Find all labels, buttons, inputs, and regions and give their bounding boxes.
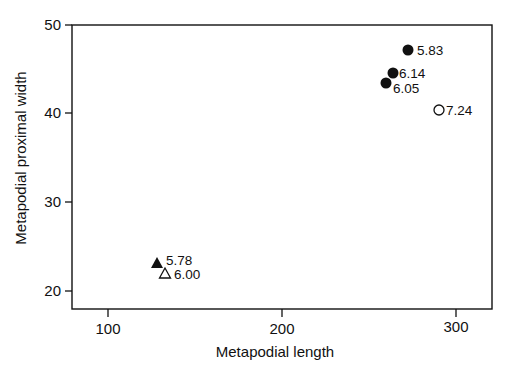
plot-frame [72,25,492,309]
y-tick-label: 20 [44,282,61,299]
point-label: 6.05 [393,81,419,96]
y-tick-label: 50 [44,16,61,33]
y-axis: 50 40 30 20 Metapodial proximal width [12,16,72,299]
point-label: 7.24 [446,103,473,118]
x-tick-label: 300 [443,318,468,335]
filled-circle-marker [388,68,399,79]
scatter-chart: 50 40 30 20 Metapodial proximal width 10… [0,0,505,371]
data-points: 5.83 6.14 6.05 7.24 5.78 6.00 [151,43,473,282]
point-label: 6.00 [174,267,200,282]
x-axis: 100 200 300 Metapodial length [95,309,468,360]
point-label: 6.14 [399,66,426,81]
open-triangle-marker [160,268,171,278]
point-label: 5.83 [417,43,443,58]
y-tick-label: 30 [44,193,61,210]
y-axis-title: Metapodial proximal width [12,71,29,244]
x-tick-label: 100 [95,320,120,337]
x-axis-title: Metapodial length [216,343,334,360]
y-tick-label: 40 [44,104,61,121]
x-tick-label: 200 [269,320,294,337]
filled-circle-marker [381,78,392,89]
filled-triangle-marker [151,257,163,268]
filled-circle-marker [403,45,414,56]
open-circle-marker [434,105,444,115]
point-label: 5.78 [166,253,192,268]
